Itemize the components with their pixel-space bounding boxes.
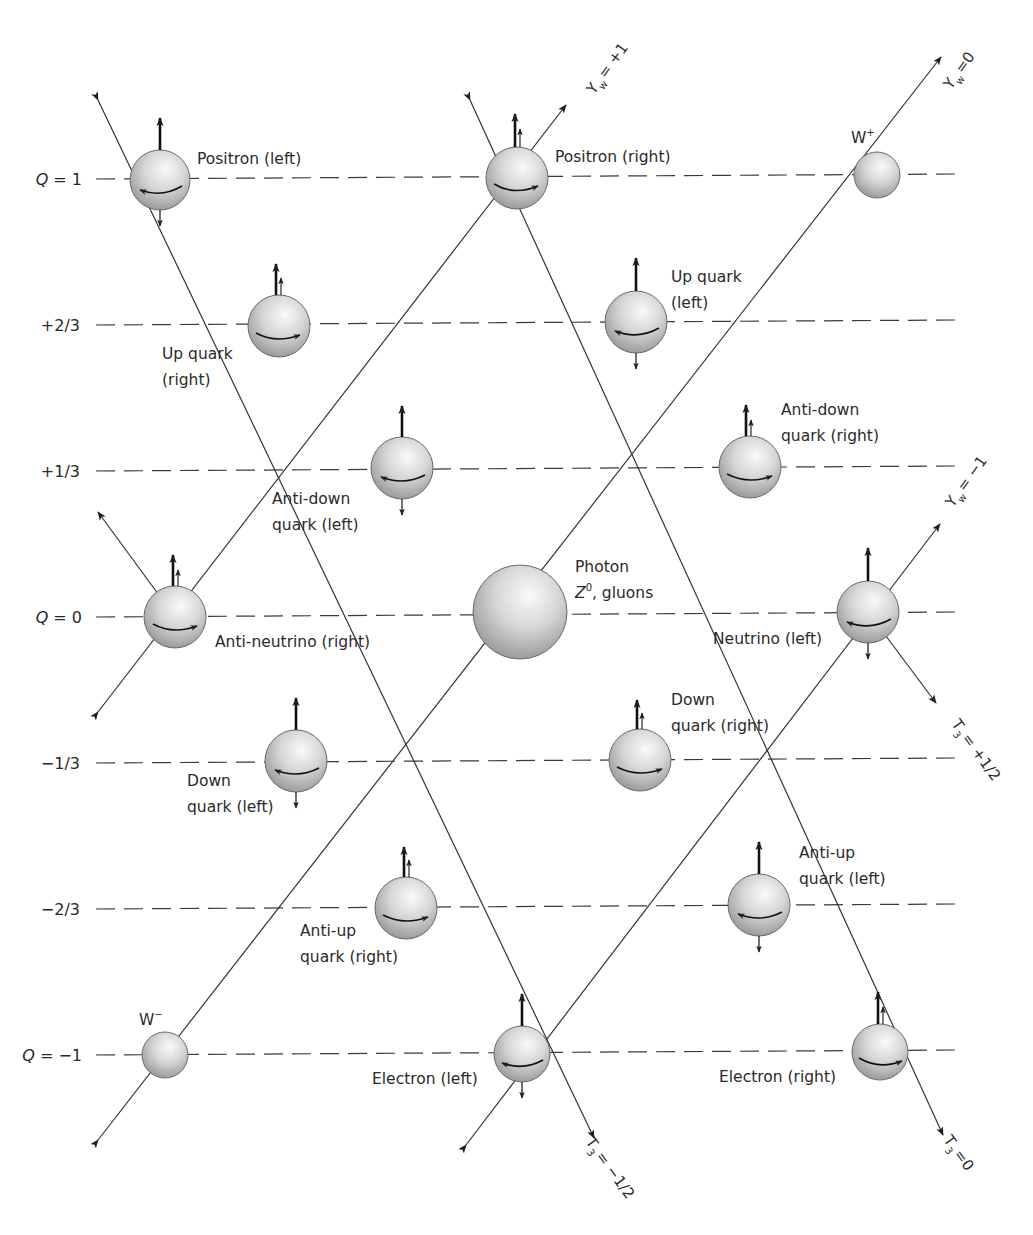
charge-label-minus1-3: −1/3 xyxy=(41,754,80,773)
charge-line-minus1-3 xyxy=(96,758,958,763)
label-positron-left: Positron (left) xyxy=(197,150,301,168)
label-anti-neutrino-right: Anti-neutrino (right) xyxy=(215,633,370,651)
label-anti-up-quark-right-2: quark (right) xyxy=(300,948,398,966)
particle-photon-z0-gluons[interactable] xyxy=(473,565,567,659)
label-anti-down-quark-left-1: Anti-down xyxy=(272,490,350,508)
label-anti-up-quark-left-1: Anti-up xyxy=(799,844,855,862)
axis-label-yw-0: Yw=0 xyxy=(939,48,981,95)
particle-spheres xyxy=(130,114,908,1098)
particle-anti-down-quark-left[interactable] xyxy=(371,406,433,515)
label-up-quark-left-2: (left) xyxy=(671,294,708,312)
particle-anti-down-quark-right[interactable] xyxy=(719,405,781,498)
label-anti-down-quark-right-1: Anti-down xyxy=(781,401,859,419)
label-w-plus: W+ xyxy=(851,127,875,147)
charge-label-plus1-3: +1/3 xyxy=(41,462,80,481)
label-up-quark-right-1: Up quark xyxy=(162,345,233,363)
axis-labels: Yw= +1 Yw=0 Yw= −1 T3= +1/2 T3= −1/2 T3=… xyxy=(579,39,1005,1204)
label-electron-left: Electron (left) xyxy=(372,1070,478,1088)
particle-w-plus[interactable] xyxy=(854,152,900,198)
charge-line-plus2-3 xyxy=(96,320,958,325)
charge-label-plus2-3: +2/3 xyxy=(41,316,80,335)
label-down-quark-right-1: Down xyxy=(671,691,715,709)
label-electron-right: Electron (right) xyxy=(719,1068,836,1086)
charge-label-qminus1: Q = −1 xyxy=(22,1046,82,1065)
particle-positron-left[interactable] xyxy=(130,118,190,226)
particle-up-quark-right[interactable] xyxy=(248,264,310,357)
label-anti-up-quark-left-2: quark (left) xyxy=(799,870,886,888)
particle-anti-neutrino-right[interactable] xyxy=(144,555,206,648)
particle-electron-left[interactable] xyxy=(494,994,550,1098)
axis-label-t3-plus-half: T3= +1/2 xyxy=(945,715,1005,786)
label-photon-2: Z0, gluons xyxy=(574,582,653,602)
label-anti-down-quark-right-2: quark (right) xyxy=(781,427,879,445)
particle-electron-right[interactable] xyxy=(852,992,908,1080)
particle-up-quark-left[interactable] xyxy=(605,258,667,369)
charge-line-minus2-3 xyxy=(96,904,958,909)
label-neutrino-left: Neutrino (left) xyxy=(713,630,822,648)
particle-w-minus[interactable] xyxy=(142,1032,188,1078)
label-anti-up-quark-right-1: Anti-up xyxy=(300,922,356,940)
particle-neutrino-left[interactable] xyxy=(837,548,899,659)
label-down-quark-right-2: quark (right) xyxy=(671,717,769,735)
label-anti-down-quark-left-2: quark (left) xyxy=(272,516,359,534)
charge-line-plus1-3 xyxy=(96,466,958,471)
electroweak-particle-diagram: Q = 1 +2/3 +1/3 Q = 0 −1/3 −2/3 Q = −1 P… xyxy=(0,0,1033,1235)
particle-anti-up-quark-right[interactable] xyxy=(375,847,437,939)
label-down-quark-left-1: Down xyxy=(187,772,231,790)
charge-label-minus2-3: −2/3 xyxy=(41,900,80,919)
label-w-minus: W− xyxy=(139,1009,163,1029)
charge-labels: Q = 1 +2/3 +1/3 Q = 0 −1/3 −2/3 Q = −1 xyxy=(22,170,82,1065)
axis-label-yw-plus1: Yw= +1 xyxy=(582,39,634,100)
particle-down-quark-right[interactable] xyxy=(609,700,671,791)
axis-label-t3-minus-half: T3= −1/2 xyxy=(579,1133,639,1204)
charge-label-q0: Q = 0 xyxy=(36,608,82,627)
label-positron-right: Positron (right) xyxy=(555,148,671,166)
label-up-quark-left-1: Up quark xyxy=(671,268,742,286)
particle-positron-right[interactable] xyxy=(486,114,548,209)
label-down-quark-left-2: quark (left) xyxy=(187,798,274,816)
particle-down-quark-left[interactable] xyxy=(265,698,327,808)
axis-label-t3-0: T3=0 xyxy=(937,1131,978,1176)
charge-label-q1: Q = 1 xyxy=(36,170,82,189)
label-up-quark-right-2: (right) xyxy=(162,371,211,389)
label-photon-1: Photon xyxy=(575,558,629,576)
particle-anti-up-quark-left[interactable] xyxy=(728,842,790,952)
axis-label-yw-minus1: Yw= −1 xyxy=(941,452,993,513)
